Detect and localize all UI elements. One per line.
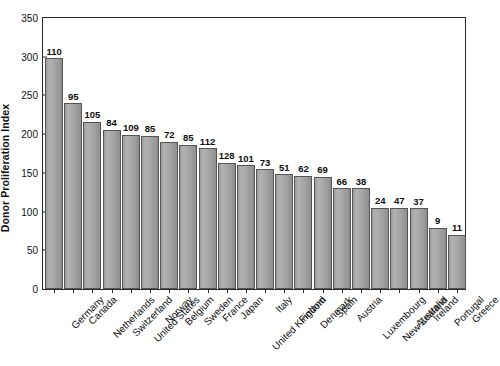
bar-group[interactable]: 85: [179, 18, 197, 289]
bar-value-label: 24: [375, 195, 386, 206]
bar-group[interactable]: 72: [160, 18, 178, 289]
bar-value-label: 51: [279, 162, 290, 173]
bar-group[interactable]: 69: [314, 18, 332, 289]
y-axis-tick-label: 250: [21, 90, 43, 101]
bar[interactable]: [122, 135, 140, 289]
bar[interactable]: [410, 208, 428, 289]
bar-value-label: 95: [68, 91, 79, 102]
bar[interactable]: [83, 122, 101, 289]
y-axis-tick-label: 200: [21, 129, 43, 140]
x-axis-tick-mark: [457, 289, 458, 293]
y-axis-tick-label: 0: [32, 284, 43, 295]
bar-value-label: 101: [238, 153, 254, 164]
x-axis-tick-mark: [361, 289, 362, 293]
bar[interactable]: [64, 103, 82, 289]
x-axis-tick-mark: [150, 289, 151, 293]
bar-value-label: 105: [85, 109, 101, 120]
x-axis-tick-mark: [419, 289, 420, 293]
x-axis-tick-mark: [188, 289, 189, 293]
y-axis-tick-label: 350: [21, 13, 43, 24]
bar-group[interactable]: 62: [294, 18, 312, 289]
bar-group[interactable]: 47: [390, 18, 408, 289]
bar[interactable]: [390, 208, 408, 289]
x-axis-label: Austria: [354, 294, 384, 324]
x-axis-tick-mark: [342, 289, 343, 293]
y-axis-tick-label: 100: [21, 206, 43, 217]
bar[interactable]: [333, 188, 351, 289]
x-axis-tick-mark: [208, 289, 209, 293]
bar-group[interactable]: 101: [237, 18, 255, 289]
bar-value-label: 38: [356, 176, 367, 187]
bar-group[interactable]: 73: [256, 18, 274, 289]
bar-value-label: 66: [337, 176, 348, 187]
bar-value-label: 128: [219, 150, 235, 161]
bar-group[interactable]: 37: [410, 18, 428, 289]
x-axis-tick-mark: [323, 289, 324, 293]
x-axis-tick-mark: [284, 289, 285, 293]
x-axis-tick-mark: [112, 289, 113, 293]
bar-value-label: 9: [435, 215, 440, 226]
bar-group[interactable]: 24: [371, 18, 389, 289]
bar[interactable]: [141, 136, 159, 289]
bar-value-label: 85: [183, 132, 194, 143]
x-axis-tick-mark: [265, 289, 266, 293]
y-axis-title-text: Donor Proliferation Index: [0, 83, 11, 253]
bar[interactable]: [237, 165, 255, 289]
bar-value-label: 85: [145, 123, 156, 134]
bar[interactable]: [314, 177, 332, 289]
bar-value-label: 11: [452, 222, 462, 233]
bar-group[interactable]: 38: [352, 18, 370, 289]
bar-group[interactable]: 9: [429, 18, 447, 289]
bar[interactable]: [218, 163, 236, 289]
bar-group[interactable]: 109: [122, 18, 140, 289]
bar[interactable]: [160, 142, 178, 289]
bar-group[interactable]: 51: [275, 18, 293, 289]
bar[interactable]: [103, 130, 121, 290]
x-axis-tick-mark: [54, 289, 55, 293]
x-axis-labels: GermanyCanadaNetherlandsSwitzerlandUnite…: [0, 294, 480, 366]
bar-group[interactable]: 128: [218, 18, 236, 289]
y-axis-title: Donor Proliferation Index: [0, 0, 17, 83]
bar[interactable]: [352, 188, 370, 289]
bar-value-label: 37: [413, 196, 424, 207]
y-axis-tick-label: 300: [21, 51, 43, 62]
x-axis-tick-mark: [169, 289, 170, 293]
x-axis-tick-mark: [92, 289, 93, 293]
bar-group[interactable]: 11: [448, 18, 466, 289]
bar[interactable]: [199, 148, 217, 289]
bar[interactable]: [294, 176, 312, 289]
x-axis-tick-mark: [303, 289, 304, 293]
bar[interactable]: [179, 145, 197, 289]
bar[interactable]: [45, 58, 63, 289]
x-axis-tick-mark: [73, 289, 74, 293]
bar-group[interactable]: 105: [83, 18, 101, 289]
plot-area: 0501001502002503003501109510584109857285…: [42, 17, 466, 290]
bar[interactable]: [429, 228, 447, 289]
bar-value-label: 112: [200, 136, 215, 147]
bar[interactable]: [275, 174, 293, 289]
bar-group[interactable]: 95: [64, 18, 82, 289]
x-axis-tick-mark: [131, 289, 132, 293]
x-axis-tick-mark: [380, 289, 381, 293]
bar-group[interactable]: 66: [333, 18, 351, 289]
plot-inner: 0501001502002503003501109510584109857285…: [43, 18, 465, 289]
bar-group[interactable]: 110: [45, 18, 63, 289]
bar-value-label: 84: [106, 117, 117, 128]
x-axis-tick-mark: [246, 289, 247, 293]
x-axis-tick-mark: [438, 289, 439, 293]
bar-value-label: 62: [298, 163, 309, 174]
bar-group[interactable]: 112: [199, 18, 217, 289]
bar-group[interactable]: 85: [141, 18, 159, 289]
bar[interactable]: [371, 208, 389, 289]
bar-value-label: 73: [260, 157, 271, 168]
bar-value-label: 72: [164, 129, 175, 140]
y-axis-tick-label: 150: [21, 167, 43, 178]
bar[interactable]: [448, 235, 466, 289]
y-axis-tick-label: 50: [27, 245, 43, 256]
x-axis-tick-mark: [399, 289, 400, 293]
bar-value-label: 47: [394, 195, 405, 206]
bar[interactable]: [256, 169, 274, 289]
bar-value-label: 109: [123, 122, 139, 133]
bar-group[interactable]: 84: [103, 18, 121, 289]
